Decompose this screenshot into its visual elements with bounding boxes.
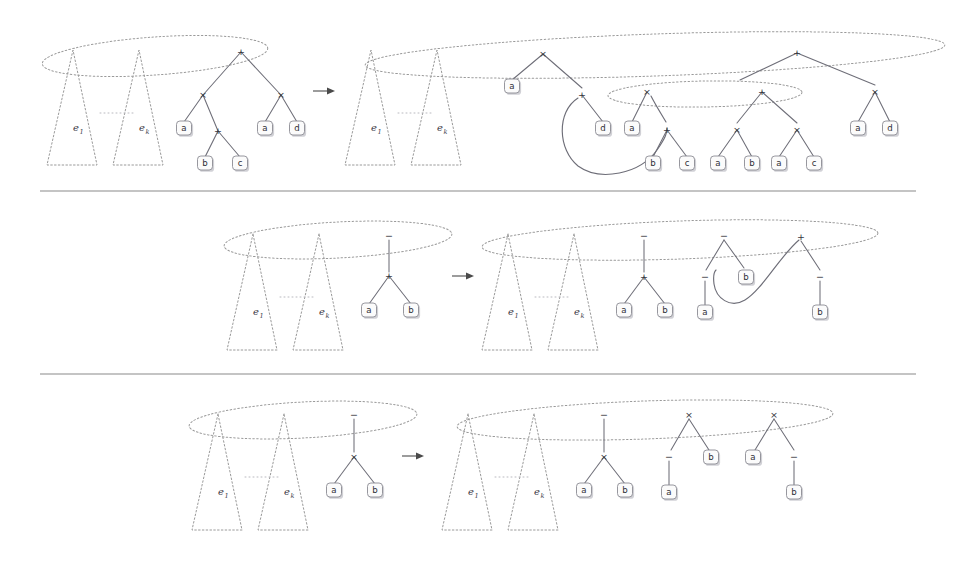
tree-edge-r1r-4 (797, 53, 875, 85)
leaf-a-11: a (331, 485, 336, 495)
op-plus-bc: + (663, 124, 671, 135)
subtree-sublabel-r1r-0: 1 (377, 128, 381, 136)
leaf-d-1: d (294, 123, 299, 133)
leaf-c-2: c (685, 158, 690, 168)
leaf-c-3: c (812, 158, 817, 168)
leaf-a-4: a (629, 123, 634, 133)
subtree-triangle-r3r-1 (508, 414, 558, 530)
subtree-sublabel-r3r-0: 1 (474, 492, 478, 500)
leaf-a-2: a (262, 123, 267, 133)
subtree-sublabel-r1r-1: k (444, 128, 448, 136)
tree-edge-r3r-6 (755, 419, 774, 450)
subtree-sublabel-r2l-1: k (326, 312, 330, 320)
op-minus-node: − (720, 230, 728, 241)
subtree-label-r1l-1: e (139, 122, 145, 133)
leaf-d-2: d (600, 123, 605, 133)
op-minus-root4: − (600, 409, 608, 420)
op-times-ad: × (871, 86, 879, 97)
leaf-a-6: a (776, 158, 781, 168)
op-minus-root: − (385, 230, 393, 241)
op-times-ab2: × (350, 451, 358, 462)
subtree-triangle-r3l-0 (192, 414, 242, 530)
leaf-d-3: d (887, 123, 892, 133)
leaf-a-13: a (666, 487, 671, 497)
tree-edge-r1r-1 (543, 54, 582, 88)
leaf-a-9: a (621, 305, 626, 315)
scope-ellipse-r3l (188, 396, 418, 444)
op-plus-inner2: + (758, 86, 766, 97)
op-times-ac: × (793, 124, 801, 135)
shared-edge-r2r-0 (714, 240, 799, 303)
leaf-a-5: a (715, 158, 720, 168)
subtree-label-r2l-0: e (253, 306, 259, 317)
leaf-a-1: a (181, 123, 186, 133)
subtree-triangle-r2r-1 (548, 234, 598, 350)
subtree-label-r1r-1: e (437, 122, 443, 133)
op-minus-a2: − (665, 451, 673, 462)
op-minus-root2: − (640, 230, 648, 241)
arrow-row-3-head (416, 453, 424, 460)
tree-edge-r2r-6 (801, 241, 820, 270)
tree-edge-r3r-4 (689, 419, 709, 450)
tree-edge-r1r-5 (632, 92, 647, 122)
leaf-b-7: b (817, 307, 822, 317)
subtree-triangle-r1l-1 (113, 50, 163, 165)
subtree-triangles-group: e1eke1eke1eke1eke1eke1ek (47, 50, 598, 530)
scope-ellipse-r2r (481, 214, 878, 266)
subtree-label-r3r-1: e (534, 486, 540, 497)
leaf-c-1: c (238, 158, 243, 168)
subtree-label-r2r-0: e (508, 306, 514, 317)
leaf-nodes-group: abcadadabcabacadabababbabababab (177, 79, 900, 501)
subtree-triangle-r2l-0 (227, 234, 277, 350)
op-times-right: × (277, 89, 285, 100)
tree-edge-r2r-3 (706, 240, 724, 270)
arrow-row-1-head (327, 88, 335, 95)
leaf-b-5: b (662, 305, 667, 315)
tree-edge-r3r-3 (671, 419, 689, 450)
op-times-ab: × (733, 124, 741, 135)
scope-ellipse-r1l (41, 29, 269, 83)
separator-lines-group (40, 191, 916, 374)
op-minus-a: − (701, 271, 709, 282)
subtree-triangle-r1r-1 (411, 50, 461, 165)
leaf-b-3: b (749, 158, 754, 168)
op-plus-node2: + (797, 231, 805, 242)
subtree-triangle-r3l-1 (258, 414, 308, 530)
tree-edge-r1l-1 (241, 52, 281, 95)
subtree-label-r2l-1: e (319, 306, 325, 317)
op-minus-b2: − (790, 451, 798, 462)
subtree-label-r3l-1: e (284, 486, 290, 497)
rewrite-rules-figure: e1eke1eke1eke1eke1eke1ek abcadadabcabaca… (0, 0, 953, 568)
op-minus-b: − (816, 271, 824, 282)
tree-edge-r1r-15 (875, 92, 890, 122)
subtree-triangle-r1l-0 (47, 50, 97, 165)
tree-edge-r1r-7 (762, 92, 797, 123)
shared-edge-r1r-1 (651, 96, 666, 122)
tree-edge-r3r-7 (774, 419, 794, 450)
leaf-a-12: a (581, 485, 586, 495)
subtree-label-r2r-1: e (574, 306, 580, 317)
subtree-triangle-r1r-0 (345, 50, 395, 165)
scope-ellipses-group (41, 24, 946, 446)
tree-edge-r1r-3 (740, 53, 797, 80)
subtree-label-r1l-0: e (73, 122, 79, 133)
leaf-a-7: a (855, 123, 860, 133)
op-times-ab3: × (600, 451, 608, 462)
op-times-node2: × (685, 409, 693, 420)
subtree-label-r1r-0: e (371, 122, 377, 133)
op-times-a-top: × (539, 48, 547, 59)
subtree-sublabel-r1l-1: k (146, 128, 150, 136)
op-minus-root3: − (350, 409, 358, 420)
subtree-sublabel-r1l-0: 1 (79, 128, 83, 136)
subtree-sublabel-r3l-1: k (291, 492, 295, 500)
rewrite-arrows-group (313, 88, 474, 460)
op-plus-ad: + (578, 89, 586, 100)
leaf-b-2: b (650, 158, 655, 168)
subtree-sublabel-r3r-1: k (541, 492, 545, 500)
leaf-b-10: b (708, 452, 713, 462)
leaf-a-10: a (702, 307, 707, 317)
leaf-b-6: b (743, 272, 748, 282)
op-plus-root: + (237, 46, 245, 57)
subtree-triangle-r2l-1 (293, 234, 343, 350)
scope-ellipse-inner-r1r (608, 79, 802, 108)
